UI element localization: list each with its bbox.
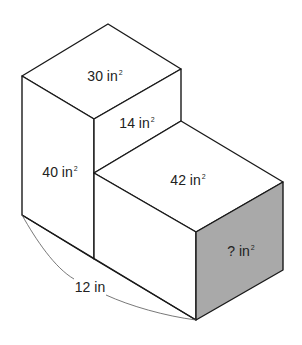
tall-front-area-label: 40 in2: [42, 164, 77, 180]
step-back-area-label: 14 in2: [119, 115, 154, 131]
short-top-area-label: 42 in2: [170, 172, 205, 188]
tall-top-area-label: 30 in2: [87, 68, 122, 84]
shaded-side-area-label: ? in2: [227, 243, 255, 259]
dimension-label: 12 in: [75, 279, 105, 295]
